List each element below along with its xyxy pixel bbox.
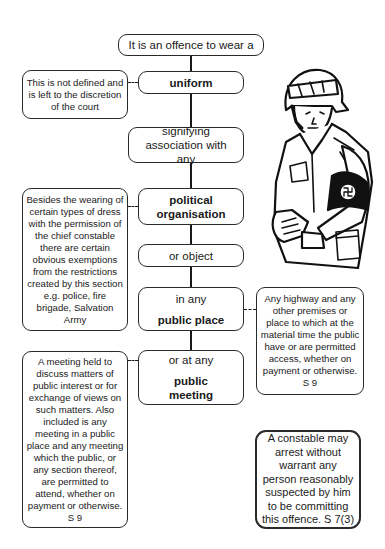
connector-line [190,331,192,350]
public-meeting-text: public meeting [139,374,243,402]
political-note-box: Besides the wearing of certain types of … [22,188,128,331]
dashed-connector [244,309,256,310]
political-text: political organisation [151,193,231,221]
arrest-note-box: A constable may arrest without warrant a… [255,430,361,529]
uniform-note-text: This is not defined and is left to the d… [26,77,124,113]
dashed-connector [128,360,138,361]
uniform-text: uniform [170,76,213,90]
political-organisation-box: political organisation [138,188,244,225]
object-box: or object [138,244,244,267]
public-meeting-box: or at any public meeting [138,350,244,405]
uniform-box: uniform [138,71,244,94]
connector-line [190,225,192,244]
connector-line [190,163,192,188]
dashed-connector [128,206,138,207]
signifying-text: signifying association with any [139,124,233,166]
soldier-illustration [262,62,382,277]
connector-line [190,56,192,71]
signifying-box: signifying association with any [128,127,244,163]
connector-line [190,94,192,127]
public-place-note-text: Any highway and any other premises or pl… [260,293,360,389]
public-meeting-note-text: A meeting held to discuss matters of pub… [26,356,124,524]
public-place-note-box: Any highway and any other premises or pl… [256,287,364,395]
public-place-prefix: in any [176,292,207,306]
start-box: It is an offence to wear a [118,34,264,56]
public-place-text: public place [158,313,224,327]
public-meeting-note-box: A meeting held to discuss matters of pub… [22,351,128,528]
start-text: It is an offence to wear a [128,38,253,52]
uniform-note-box: This is not defined and is left to the d… [22,70,128,119]
connector-line [190,267,192,287]
object-text: or object [169,249,213,263]
dashed-connector [128,82,138,83]
public-place-box: in any public place [138,287,244,331]
political-note-text: Besides the wearing of certain types of … [26,194,124,326]
public-meeting-prefix: or at any [169,353,214,367]
arrest-note-text: A constable may arrest without warrant a… [261,432,355,527]
